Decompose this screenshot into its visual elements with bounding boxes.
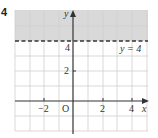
x-tick-4: 4 xyxy=(129,103,134,114)
graph: −2 O 2 4 x 2 4 y y = 4 xyxy=(0,0,158,138)
line-label: y = 4 xyxy=(119,43,141,54)
origin-label: O xyxy=(62,103,69,114)
shaded-region xyxy=(15,10,148,41)
y-tick-4: 4 xyxy=(65,42,70,53)
x-tick-neg2: −2 xyxy=(38,103,49,114)
y-axis-label: y xyxy=(63,8,69,19)
x-axis-label: x xyxy=(141,103,147,114)
y-tick-2: 2 xyxy=(64,65,69,76)
x-tick-2: 2 xyxy=(100,103,105,114)
